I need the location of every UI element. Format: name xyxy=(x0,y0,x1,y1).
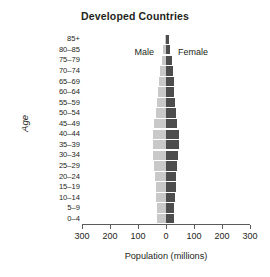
pyramid-row xyxy=(82,140,250,151)
y-axis-tick-label: 40–44 xyxy=(34,130,80,138)
pyramid-row xyxy=(82,213,250,224)
pyramid-row xyxy=(82,87,250,98)
pyramid-row xyxy=(82,76,250,87)
bar-female xyxy=(166,172,176,181)
series-label-female: Female xyxy=(178,47,224,57)
y-axis-tick-label: 55–59 xyxy=(34,99,80,107)
bar-female xyxy=(166,203,174,212)
pyramid-row xyxy=(82,118,250,129)
pyramid-row xyxy=(82,66,250,77)
bar-female xyxy=(166,66,173,75)
y-axis-tick-label: 30–34 xyxy=(34,151,80,159)
x-axis-tick-label: 300 xyxy=(230,231,270,241)
x-axis-tick xyxy=(138,225,139,229)
bar-male xyxy=(156,182,166,191)
bar-male xyxy=(154,119,166,128)
pyramid-row xyxy=(82,203,250,214)
pyramid-row xyxy=(82,171,250,182)
y-axis-tick-label: 65–69 xyxy=(34,78,80,86)
y-axis-tick-label: 75–79 xyxy=(34,56,80,64)
bar-female xyxy=(166,56,172,65)
x-axis-title: Population (millions) xyxy=(82,251,250,261)
bar-female xyxy=(166,45,170,54)
population-pyramid-figure: Developed Countries Age 85+80–8575–7970–… xyxy=(0,0,270,277)
bar-male xyxy=(153,130,166,139)
bar-female xyxy=(166,98,175,107)
pyramid-row xyxy=(82,97,250,108)
bar-male xyxy=(157,98,166,107)
y-axis-tick-label: 5–9 xyxy=(34,204,80,212)
pyramid-row xyxy=(82,108,250,119)
bar-female xyxy=(166,119,177,128)
chart-title: Developed Countries xyxy=(0,10,270,22)
y-axis-tick-label: 0–4 xyxy=(34,215,80,223)
bar-female xyxy=(166,130,179,139)
pyramid-row xyxy=(82,192,250,203)
x-axis-tick xyxy=(250,225,251,229)
bar-female xyxy=(166,161,177,170)
bar-male xyxy=(156,108,166,117)
bar-male xyxy=(158,87,166,96)
bar-male xyxy=(156,193,166,202)
pyramid-row xyxy=(82,55,250,66)
y-axis-tick-label: 85+ xyxy=(34,35,80,43)
bar-male xyxy=(159,77,166,86)
y-axis-tick-label: 20–24 xyxy=(34,173,80,181)
pyramid-row xyxy=(82,182,250,193)
bar-male xyxy=(153,140,166,149)
y-axis-tick-label: 10–14 xyxy=(34,194,80,202)
y-axis-tick-label: 80–85 xyxy=(34,46,80,54)
y-axis-tick-label: 60–64 xyxy=(34,88,80,96)
series-label-male: Male xyxy=(112,47,154,57)
x-axis-tick xyxy=(194,225,195,229)
bar-female xyxy=(166,193,175,202)
bar-female xyxy=(166,182,176,191)
bar-female xyxy=(166,151,178,160)
bar-female xyxy=(166,108,176,117)
pyramid-row xyxy=(82,161,250,172)
y-axis-tick-label: 35–39 xyxy=(34,141,80,149)
plot-area xyxy=(82,34,250,224)
bar-female xyxy=(166,140,179,149)
y-axis-tick-label: 70–74 xyxy=(34,67,80,75)
x-axis-tick xyxy=(222,225,223,229)
bar-male xyxy=(155,172,166,181)
bar-female xyxy=(166,77,174,86)
bar-male xyxy=(154,161,166,170)
bar-female xyxy=(166,35,169,44)
y-axis-tick-label: 15–19 xyxy=(34,183,80,191)
x-axis-tick xyxy=(82,225,83,229)
pyramid-row xyxy=(82,34,250,45)
pyramid-row xyxy=(82,45,250,56)
x-axis-tick xyxy=(166,225,167,229)
bar-female xyxy=(166,214,174,223)
x-axis-tick xyxy=(110,225,111,229)
bar-female xyxy=(166,87,174,96)
y-axis-tick-label: 45–49 xyxy=(34,120,80,128)
y-axis-tick-label: 25–29 xyxy=(34,162,80,170)
y-axis-tick-label: 50–54 xyxy=(34,109,80,117)
y-axis-tick-labels: 85+80–8575–7970–7465–6960–6455–5950–5445… xyxy=(34,34,80,224)
pyramid-row xyxy=(82,129,250,140)
bar-male xyxy=(153,151,166,160)
bar-male xyxy=(157,203,166,212)
y-axis-title: Age xyxy=(19,94,30,154)
bar-male xyxy=(157,214,166,223)
pyramid-row xyxy=(82,150,250,161)
